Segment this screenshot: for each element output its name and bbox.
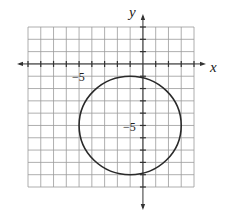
x-tick-label-minus-5: −5 [72, 70, 85, 84]
y-axis-down-arrow-icon [141, 204, 145, 210]
axes [17, 14, 206, 210]
x-axis-left-arrow-icon [17, 62, 23, 66]
y-axis-label: y [127, 4, 136, 20]
coordinate-plane: x y −5 −5 [0, 0, 227, 211]
axis-ticks [28, 27, 194, 187]
x-axis-right-arrow-icon [200, 62, 206, 66]
grid-lines [28, 27, 194, 187]
y-tick-label-minus-5: −5 [123, 120, 136, 134]
x-axis-label: x [209, 59, 217, 75]
y-axis-up-arrow-icon [141, 14, 145, 20]
